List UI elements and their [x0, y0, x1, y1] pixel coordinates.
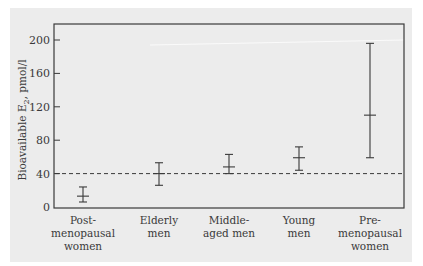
error-bar — [293, 147, 305, 170]
y-tick-label: 160 — [29, 67, 50, 80]
x-axis-labels: Post-menopausalwomenElderlymenMiddle-age… — [51, 214, 403, 252]
error-bars — [77, 43, 376, 202]
y-tick-label: 40 — [36, 168, 50, 181]
x-category-label: Pre-menopausalwomen — [338, 214, 403, 252]
errorbar-chart: 04080120160200 Post-menopausalwomenElder… — [0, 0, 423, 266]
x-category-label: Youngmen — [282, 214, 316, 239]
error-bar — [77, 187, 89, 202]
error-bar — [223, 154, 235, 173]
x-category-label: Middle-aged men — [203, 214, 255, 239]
x-category-label: Post-menopausalwomen — [51, 214, 116, 252]
y-tick-label: 120 — [29, 101, 50, 114]
plot-frame — [54, 24, 404, 208]
error-bar — [153, 163, 165, 186]
scan-artifact-line — [150, 40, 404, 45]
y-tick-label: 200 — [29, 34, 50, 47]
y-axis: 04080120160200 — [29, 34, 60, 214]
x-category-label: Elderlymen — [140, 214, 178, 239]
error-bar — [364, 43, 376, 157]
y-tick-label: 80 — [36, 134, 50, 147]
y-tick-label: 0 — [43, 201, 50, 214]
